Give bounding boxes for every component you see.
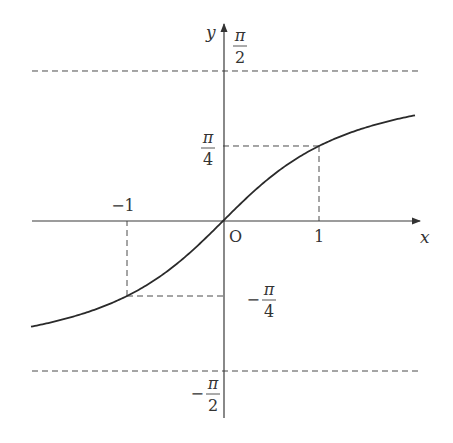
svg-text:2: 2 [235, 48, 245, 67]
svg-text:2: 2 [208, 396, 218, 415]
svg-text:4: 4 [203, 150, 213, 169]
svg-text:π: π [202, 128, 214, 147]
x-tick-label: 1 [314, 227, 324, 246]
origin-label: O [229, 227, 242, 246]
x-axis-label: x [420, 227, 430, 247]
arctan-graph: x y O −11 π2π4π4−π2− [0, 0, 453, 443]
y-tick-label: π4− [247, 280, 276, 321]
svg-text:π: π [234, 26, 246, 45]
x-tick-label: −1 [111, 196, 135, 215]
svg-text:π: π [207, 374, 219, 393]
svg-text:π: π [263, 280, 275, 299]
y-tick-label: π4 [201, 128, 215, 169]
svg-text:4: 4 [264, 302, 274, 321]
svg-text:−: − [247, 290, 260, 309]
y-tick-label: π2− [191, 374, 220, 415]
y-axis-label: y [205, 22, 216, 42]
svg-text:−: − [191, 384, 204, 403]
y-tick-label: π2 [233, 26, 247, 67]
